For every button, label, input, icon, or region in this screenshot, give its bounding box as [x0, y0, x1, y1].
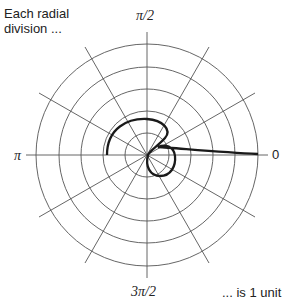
label-pi: π — [14, 148, 21, 163]
label-zero: 0 — [272, 147, 279, 162]
unit-note: ... is 1 unit — [222, 285, 281, 300]
polar-plot — [0, 0, 293, 307]
spiral-curve — [107, 119, 258, 176]
label-half-pi: π/2 — [136, 8, 154, 23]
label-three-half-pi: 3π/2 — [131, 284, 156, 299]
